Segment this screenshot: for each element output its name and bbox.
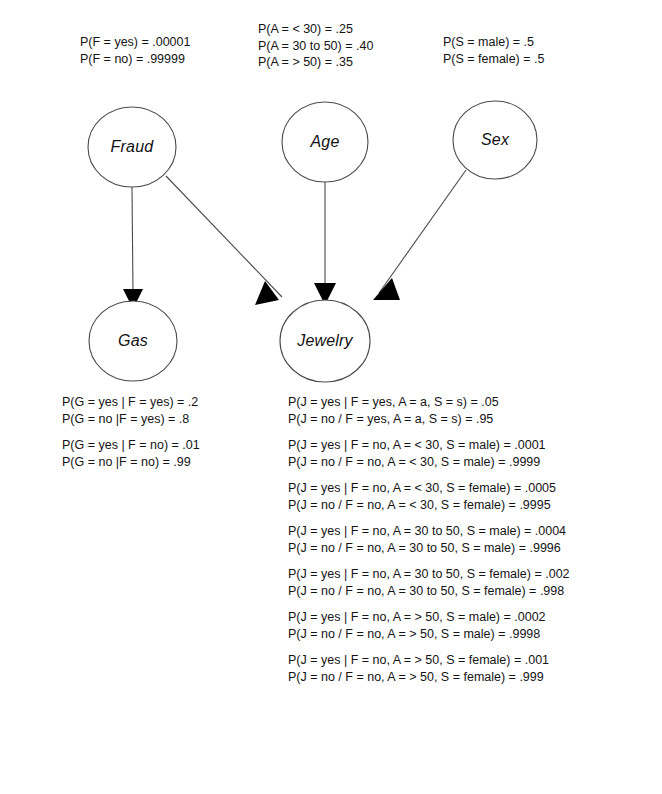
edge-fraud-to-jewelry (166, 176, 282, 305)
cpt-jewelry-group-7: P(J = yes | F = no, A = > 50, S = female… (288, 652, 570, 686)
cpt-jewelry-group-5: P(J = yes | F = no, A = 30 to 50, S = fe… (288, 566, 570, 600)
cpt-jewelry-line-13: P(J = yes | F = no, A = > 50, S = female… (288, 652, 570, 669)
prior-table-sex: P(S = male) = .5 P(S = female) = .5 (443, 34, 544, 67)
node-label-gas: Gas (118, 332, 148, 350)
cpt-jewelry-line-6: P(J = no / F = no, A = < 30, S = female)… (288, 497, 570, 514)
prior-table-fraud: P(F = yes) = .00001 P(F = no) = .99999 (80, 34, 190, 67)
cpt-gas-group-1: P(G = yes | F = yes) = .2 P(G = no |F = … (62, 394, 200, 428)
cpt-jewelry-group-4: P(J = yes | F = no, A = 30 to 50, S = ma… (288, 523, 570, 557)
cpt-gas-line-3: P(G = yes | F = no) = .01 (62, 437, 200, 454)
cpt-jewelry-line-3: P(J = yes | F = no, A = < 30, S = male) … (288, 437, 570, 454)
cpt-jewelry-group-1: P(J = yes | F = yes, A = a, S = s) = .05… (288, 394, 570, 428)
cpt-jewelry-line-5: P(J = yes | F = no, A = < 30, S = female… (288, 480, 570, 497)
prior-age-line-2: P(A = 30 to 50) = .40 (258, 38, 373, 55)
cpt-gas-line-1: P(G = yes | F = yes) = .2 (62, 394, 200, 411)
cpt-table-jewelry: P(J = yes | F = yes, A = a, S = s) = .05… (288, 394, 570, 686)
cpt-gas-line-2: P(G = no |F = yes) = .8 (62, 411, 200, 428)
edge-sex-to-jewelry (373, 170, 466, 300)
diagram-page: P(F = yes) = .00001 P(F = no) = .99999 P… (0, 0, 662, 794)
cpt-jewelry-line-9: P(J = yes | F = no, A = 30 to 50, S = fe… (288, 566, 570, 583)
prior-fraud-line-2: P(F = no) = .99999 (80, 51, 190, 68)
cpt-jewelry-line-14: P(J = no / F = no, A = > 50, S = female)… (288, 669, 570, 686)
prior-sex-line-2: P(S = female) = .5 (443, 51, 544, 68)
node-label-jewelry: Jewelry (297, 332, 353, 350)
cpt-jewelry-group-3: P(J = yes | F = no, A = < 30, S = female… (288, 480, 570, 514)
cpt-jewelry-line-8: P(J = no / F = no, A = 30 to 50, S = mal… (288, 540, 570, 557)
prior-age-line-3: P(A = > 50) = .35 (258, 54, 373, 71)
node-label-fraud: Fraud (111, 138, 154, 156)
node-label-age: Age (310, 133, 339, 151)
cpt-jewelry-group-2: P(J = yes | F = no, A = < 30, S = male) … (288, 437, 570, 471)
cpt-jewelry-line-2: P(J = no / F = yes, A = a, S = s) = .95 (288, 411, 570, 428)
cpt-jewelry-line-11: P(J = yes | F = no, A = > 50, S = male) … (288, 609, 570, 626)
cpt-gas-group-2: P(G = yes | F = no) = .01 P(G = no |F = … (62, 437, 200, 471)
cpt-table-gas: P(G = yes | F = yes) = .2 P(G = no |F = … (62, 394, 200, 471)
prior-table-age: P(A = < 30) = .25 P(A = 30 to 50) = .40 … (258, 21, 373, 71)
cpt-jewelry-line-7: P(J = yes | F = no, A = 30 to 50, S = ma… (288, 523, 570, 540)
cpt-jewelry-line-12: P(J = no / F = no, A = > 50, S = male) =… (288, 626, 570, 643)
cpt-jewelry-line-1: P(J = yes | F = yes, A = a, S = s) = .05 (288, 394, 570, 411)
cpt-jewelry-line-10: P(J = no / F = no, A = 30 to 50, S = fem… (288, 583, 570, 600)
prior-sex-line-1: P(S = male) = .5 (443, 34, 544, 51)
cpt-jewelry-group-6: P(J = yes | F = no, A = > 50, S = male) … (288, 609, 570, 643)
cpt-gas-line-4: P(G = no |F = no) = .99 (62, 454, 200, 471)
edge-age-to-jewelry (314, 182, 336, 305)
prior-fraud-line-1: P(F = yes) = .00001 (80, 34, 190, 51)
node-label-sex: Sex (481, 131, 509, 149)
prior-age-line-1: P(A = < 30) = .25 (258, 21, 373, 38)
cpt-jewelry-line-4: P(J = no / F = no, A = < 30, S = male) =… (288, 454, 570, 471)
edge-fraud-to-gas (123, 187, 143, 309)
